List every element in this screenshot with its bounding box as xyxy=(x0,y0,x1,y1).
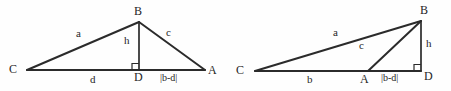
side-label-c-acute: c xyxy=(166,27,171,38)
segment-label-b-minus-d-acute: |b-d| xyxy=(160,73,177,83)
vertex-label-C-obtuse: C xyxy=(236,64,244,76)
segment-label-b-minus-d-obtuse: |b-d| xyxy=(381,73,398,83)
segment-CB-side-a-obtuse xyxy=(255,21,421,71)
vertex-label-A-obtuse: A xyxy=(360,73,369,85)
side-label-a-obtuse: a xyxy=(333,27,338,38)
side-label-h-obtuse: h xyxy=(426,38,432,49)
vertex-label-B-obtuse: B xyxy=(420,4,428,16)
geometry-figure: C B A D a c h d |b-d| C B A D a c h b |b… xyxy=(0,0,451,91)
segment-label-b-obtuse: b xyxy=(307,74,313,85)
acute-triangle-group xyxy=(27,22,205,70)
vertex-label-B-acute: B xyxy=(134,5,142,17)
vertex-label-D-obtuse: D xyxy=(424,70,433,82)
vertex-label-C-acute: C xyxy=(9,63,17,75)
segment-CB-side-a-acute xyxy=(27,22,139,70)
vertex-label-D-acute: D xyxy=(134,71,143,83)
segment-label-d-acute: d xyxy=(90,74,96,85)
side-label-h-acute: h xyxy=(124,35,130,46)
obtuse-triangle-group xyxy=(255,21,421,71)
segment-BA-side-c-acute xyxy=(139,22,205,70)
side-label-c-obtuse: c xyxy=(359,40,364,51)
side-label-a-acute: a xyxy=(76,28,81,39)
vertex-label-A-acute: A xyxy=(208,64,217,76)
